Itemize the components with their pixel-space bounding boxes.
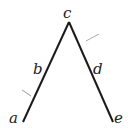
label-b: b [33, 60, 43, 78]
label-e: e [114, 109, 123, 127]
label-d: d [93, 60, 103, 78]
right-tick-mark [86, 34, 99, 41]
right-arm-line [69, 22, 113, 122]
left-arm-line [23, 22, 69, 122]
label-c: c [63, 4, 72, 22]
left-tick-mark [22, 90, 31, 96]
label-a: a [9, 109, 18, 127]
v-diagram: c b d a e [0, 0, 128, 132]
